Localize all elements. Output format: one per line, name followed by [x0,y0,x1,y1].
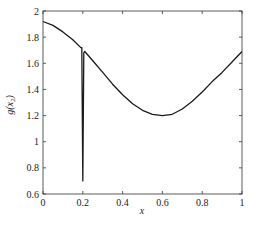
x-tick-label: 0 [41,197,46,208]
y-tick-label: 1.6 [27,58,40,69]
y-tick-label: 2 [34,6,39,17]
plot-frame [43,11,242,194]
x-tick-label: 0.4 [116,197,129,208]
data-line [43,22,242,181]
y-tick-label: 1.2 [27,110,40,121]
y-tick-label: 0.8 [27,162,40,173]
x-tick-label: 0.6 [156,197,169,208]
y-tick-label: 1.8 [27,32,40,43]
y-tick-label: 1.4 [27,84,40,95]
x-tick-label: 1 [240,197,245,208]
line-chart: 0.60.811.21.41.61.82 00.20.40.60.81 x g(… [0,0,257,227]
x-axis-ticks: 00.20.40.60.81 [41,11,245,208]
y-axis-ticks: 0.60.811.21.41.61.82 [27,6,243,200]
x-tick-label: 0.8 [196,197,209,208]
y-axis-label: g(x₂) [4,95,16,115]
y-tick-label: 0.6 [27,189,40,200]
y-tick-label: 1 [34,136,39,147]
x-axis-label: x [139,205,145,216]
x-tick-label: 0.2 [77,197,90,208]
